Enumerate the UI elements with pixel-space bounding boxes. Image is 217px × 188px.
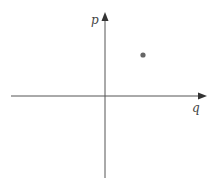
p-axis-label: p (91, 14, 99, 26)
plotted-point (140, 52, 145, 57)
p-axis-arrowhead-icon (102, 12, 109, 21)
coordinate-plane: p q (0, 0, 217, 188)
q-axis-arrowhead-icon (198, 93, 207, 100)
q-axis-label: q (192, 102, 200, 114)
